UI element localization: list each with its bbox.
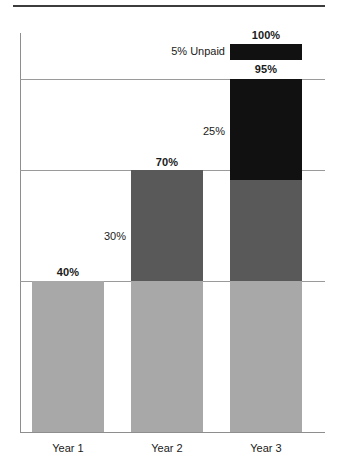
segment-label-year3-increment: 25% [170,125,225,138]
x-axis-line [20,432,325,433]
x-axis-label-year1: Year 1 [32,441,104,455]
top-divider-rule [13,5,325,7]
x-axis-label-year2: Year 2 [131,441,203,455]
bar-segment-unpaid-year3 [230,44,302,60]
segment-label-year2-increment: 30% [71,230,126,243]
value-label-year1-total: 40% [32,266,104,279]
x-axis-label-year3: Year 3 [230,441,302,455]
value-label-year3-total: 95% [230,63,302,76]
y-axis-line [20,33,21,432]
bar-segment-base-year3 [230,281,302,432]
bar-segment-increment-year2 [131,170,203,281]
value-label-year2-total: 70% [131,156,203,169]
bar-segment-base-year2 [131,281,203,432]
bar-segment-base-year1 [32,281,104,432]
bar-segment-increment-year3 [230,180,302,281]
bar-segment-additional-year3 [230,79,302,180]
segment-label-year3-unpaid: 5% Unpaid [150,45,225,58]
value-label-year3-total-with-unpaid: 100% [230,29,302,42]
stacked-bar-chart: 40% 70% 95% 100% 30% 25% 5% Unpaid Year … [0,0,343,467]
